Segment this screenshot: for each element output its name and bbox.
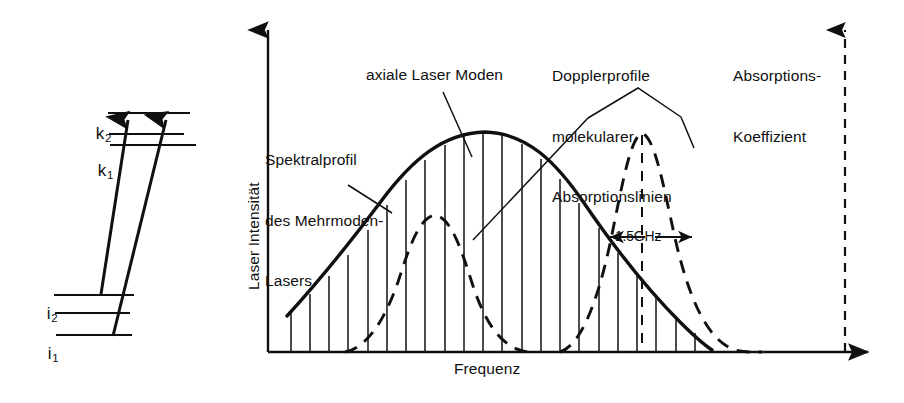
transition-arrow-2 [113, 120, 166, 336]
x-axis-label: Frequenz [454, 360, 520, 379]
level-label-k1: k1 [78, 140, 113, 202]
leader-axial-modes [443, 92, 472, 157]
annotation-spectral-profile-line-1: Spektralprofil [265, 150, 384, 170]
right-axis-label: Absorptions- Koeffizient [733, 26, 821, 187]
annotation-spectral-profile-line-3: Lasers [265, 271, 384, 291]
annotation-spectral-profile: Spektralprofil des Mehrmoden- Lasers [265, 110, 384, 332]
leader-doppler-to-curve-2 [681, 117, 694, 148]
right-axis-label-line-1: Absorptions- [733, 66, 821, 86]
figure-root: k2 k1 i2 i1 Laser Intensität Frequenz Ab… [0, 0, 904, 403]
annotation-spectral-profile-line-2: des Mehrmoden- [265, 211, 384, 231]
y-axis-label: Laser Intensität [245, 182, 264, 290]
annotation-doppler-line-1: Dopplerprofile [552, 66, 672, 86]
annotation-linewidth-1-5-ghz: 1.5GHz [615, 228, 661, 245]
level-label-i1: i1 [28, 323, 58, 385]
annotation-doppler-line-3: Absorptionslinien [552, 187, 672, 207]
right-axis-label-line-2: Koeffizient [733, 127, 821, 147]
annotation-axial-laser-modes: axiale Laser Moden [366, 66, 503, 85]
annotation-doppler-line-2: molekularer [552, 127, 672, 147]
annotation-doppler-profiles: Dopplerprofile molekularer Absorptionsli… [552, 26, 672, 248]
